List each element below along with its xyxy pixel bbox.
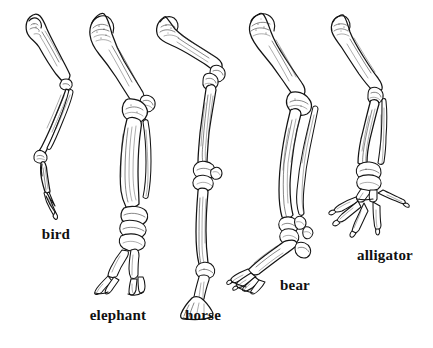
bird-skeleton (26, 14, 73, 219)
bear-skeleton (227, 13, 318, 294)
specimen-label-bird: bird (42, 227, 70, 242)
specimen-label-alligator: alligator (357, 248, 413, 263)
skeleton-illustration (0, 0, 433, 348)
elephant-skeleton (90, 13, 155, 295)
specimen-label-bear: bear (280, 278, 310, 293)
horse-skeleton (157, 17, 226, 320)
alligator-skeleton (329, 15, 409, 237)
specimen-label-elephant: elephant (90, 308, 147, 323)
specimen-label-horse: horse (185, 308, 221, 323)
comparative-limb-skeleton-figure: bird elephant horse bear alligator (0, 0, 433, 348)
